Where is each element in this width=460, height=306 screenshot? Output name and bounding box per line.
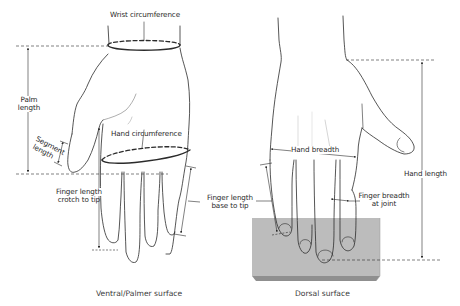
hand-anthropometry-diagram: Wrist circumference Palm length Segment … (0, 0, 460, 306)
caption-dorsal-surface: Dorsal surface (295, 289, 350, 298)
label-hand-circumference: Hand circumference (111, 130, 182, 138)
caption-ventral-surface: Ventral/Palmer surface (96, 289, 182, 298)
label-finger-breadth-line2: at joint (356, 200, 412, 208)
label-finger-length-crotch-line2: crotch to tip (50, 196, 100, 204)
diagram-drawing (0, 0, 460, 306)
label-hand-length: Hand length (404, 170, 447, 178)
label-palm-length-line2: length (15, 104, 43, 112)
label-wrist-circumference: Wrist circumference (110, 11, 180, 19)
label-hand-breadth: Hand breadth (291, 146, 339, 154)
ventral-hand (68, 22, 190, 263)
label-finger-length-base-line2: base to tip (204, 202, 256, 210)
